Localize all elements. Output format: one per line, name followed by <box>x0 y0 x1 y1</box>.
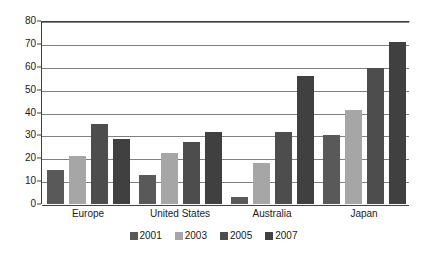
bar <box>113 139 130 204</box>
bar <box>231 197 248 204</box>
chart-legend: 2001200320052007 <box>0 231 427 241</box>
bar <box>91 124 108 204</box>
x-axis-tick-label: Australia <box>253 208 292 220</box>
legend-swatch-icon <box>130 232 138 240</box>
bar <box>275 132 292 204</box>
bar <box>323 135 340 204</box>
bar <box>47 170 64 204</box>
legend-item: 2001 <box>130 231 162 241</box>
bar <box>345 110 362 204</box>
bar <box>297 76 314 204</box>
bar <box>367 68 384 204</box>
bar <box>161 153 178 204</box>
x-axis-tick-label: United States <box>150 208 210 220</box>
legend-item: 2007 <box>265 231 297 241</box>
x-axis-tick-label: Europe <box>72 208 104 220</box>
bar-group <box>42 21 134 204</box>
bar <box>389 42 406 204</box>
bars-layer <box>42 21 410 204</box>
legend-swatch-icon <box>175 232 183 240</box>
x-axis-tick-label: Japan <box>350 208 377 220</box>
legend-label: 2001 <box>140 231 162 241</box>
bar <box>139 175 156 204</box>
y-axis-tick-marks <box>0 21 41 204</box>
gridline <box>42 205 409 206</box>
legend-swatch-icon <box>265 232 273 240</box>
bar-group <box>134 21 226 204</box>
bar-group <box>226 21 318 204</box>
bar <box>205 132 222 204</box>
bar <box>253 163 270 204</box>
legend-label: 2003 <box>185 231 207 241</box>
legend-label: 2007 <box>275 231 297 241</box>
bar <box>69 156 86 204</box>
bar-chart: 01020304050607080 EuropeUnited StatesAus… <box>0 0 427 262</box>
legend-item: 2003 <box>175 231 207 241</box>
bar-group <box>318 21 410 204</box>
x-axis-category-labels: EuropeUnited StatesAustraliaJapan <box>42 208 410 224</box>
legend-swatch-icon <box>220 232 228 240</box>
legend-label: 2005 <box>230 231 252 241</box>
legend-item: 2005 <box>220 231 252 241</box>
bar <box>183 142 200 204</box>
